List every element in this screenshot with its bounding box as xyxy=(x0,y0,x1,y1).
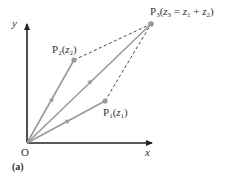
arrowhead-z1 xyxy=(65,117,72,124)
point-p3 xyxy=(148,21,154,27)
y-axis-label: y xyxy=(11,17,17,29)
vector-addition-diagram: y x O (a) P2(z2) P1(z1) P3(z3 = z1 + z2) xyxy=(0,0,226,185)
label-p2: P2(z2) xyxy=(52,43,77,57)
panel-label: (a) xyxy=(12,161,24,173)
label-p3-close: ) xyxy=(210,5,214,18)
label-p3-eq: = xyxy=(171,5,183,17)
origin-label: O xyxy=(21,146,29,158)
label-p3-plus: + xyxy=(191,5,203,17)
vector-z3 xyxy=(27,24,151,143)
dashed-line-p2-p3 xyxy=(74,24,151,60)
label-p2-close: ) xyxy=(73,43,77,56)
point-p2 xyxy=(71,57,76,62)
label-p1-close: ) xyxy=(124,106,128,119)
label-p3: P3(z3 = z1 + z2) xyxy=(150,5,214,19)
x-axis-label: x xyxy=(144,146,150,158)
point-p1 xyxy=(102,98,107,103)
label-p1: P1(z1) xyxy=(103,106,128,120)
